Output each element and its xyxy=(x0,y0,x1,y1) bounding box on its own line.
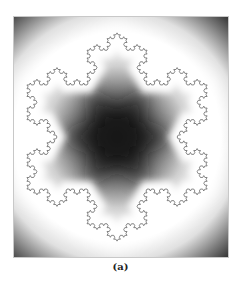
distance-field-panel xyxy=(13,16,229,258)
figure-caption: (a) xyxy=(0,261,241,272)
koch-snowflake-image xyxy=(14,17,228,257)
figure: (a) xyxy=(0,0,241,290)
